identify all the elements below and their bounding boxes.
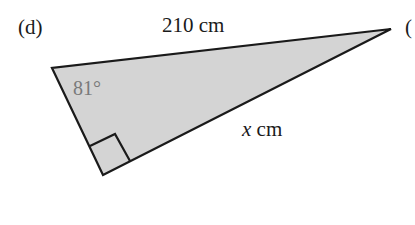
part-label: (d) [18,17,43,38]
side-variable: x [242,117,251,141]
triangle-figure: (d) 210 cm 81° x cm ( [0,0,415,225]
triangle-shape [52,29,391,175]
hypotenuse-length-label: 210 cm [162,15,224,36]
side-unit: cm [251,117,282,141]
next-part-label-partial: ( [405,17,412,38]
side-x-label: x cm [242,119,282,140]
angle-label: 81° [73,78,101,98]
